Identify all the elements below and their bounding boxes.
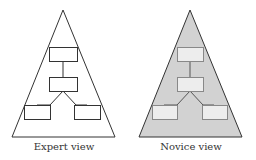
expert-middle-box [50,78,78,92]
expert-bottom-right-box [75,106,101,120]
novice-hierarchy-diagram [127,0,255,160]
expert-view-caption: Expert view [0,141,128,152]
expert-bottom-left-box [25,106,51,120]
novice-bottom-left-box [153,106,178,120]
novice-view-caption: Novice view [127,141,255,152]
novice-view-panel: Novice view [127,0,255,160]
expert-hierarchy-diagram [0,0,128,160]
novice-bottom-right-box [203,106,228,120]
expert-view-panel: Expert view [0,0,128,160]
novice-middle-box [178,78,204,92]
novice-top-box [178,48,204,62]
expert-top-box [50,48,78,62]
